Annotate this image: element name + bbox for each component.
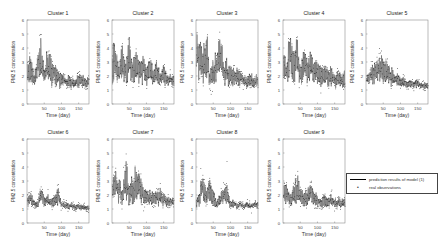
y-axis-label: PM2.5 concentration <box>180 159 185 202</box>
y-tick-label: 5 <box>107 151 110 156</box>
x-tick-label: 150 <box>331 106 339 111</box>
y-tick-label: 5 <box>191 32 194 37</box>
x-tick-label: 150 <box>244 225 252 230</box>
y-tick-label: 2 <box>278 193 281 198</box>
observation-dots <box>283 37 345 94</box>
y-tick-label: 2 <box>107 74 110 79</box>
x-axis-label: Time (day) <box>385 112 410 118</box>
x-tick-label: 150 <box>160 225 168 230</box>
y-tick-label: 1 <box>278 207 281 212</box>
x-axis-label: Time (day) <box>215 231 240 237</box>
legend-entry-prediction: prediction results of model (1) <box>350 176 424 182</box>
plot-area-frame <box>27 139 89 223</box>
x-tick-label: 100 <box>314 106 322 111</box>
x-axis-label: Time (day) <box>46 231 71 237</box>
y-axis-label: PM2.5 concentration <box>96 40 101 83</box>
panel-title: Cluster 4 <box>304 10 325 16</box>
y-tick-label: 2 <box>191 193 194 198</box>
x-tick-label: 50 <box>127 225 132 230</box>
y-tick-label: 1 <box>107 207 110 212</box>
x-tick-label: 50 <box>127 106 132 111</box>
panel-8: Cluster 8PM2.5 concentration012345650100… <box>180 129 258 237</box>
y-tick-label: 4 <box>361 46 364 51</box>
panel-title: Cluster 2 <box>133 10 154 16</box>
solid-line-swatch-icon <box>350 179 366 180</box>
legend-label-observations: real observations <box>369 185 401 190</box>
x-tick-label: 50 <box>42 225 47 230</box>
prediction-line <box>196 35 258 88</box>
x-tick-label: 50 <box>211 225 216 230</box>
legend-label-prediction: prediction results of model (1) <box>369 177 424 182</box>
y-tick-label: 4 <box>107 46 110 51</box>
y-tick-label: 3 <box>107 60 110 65</box>
x-tick-label: 50 <box>42 106 47 111</box>
x-axis-label: Time (day) <box>302 231 327 237</box>
panel-5: Cluster 5PM2.5 concentration012345650100… <box>350 10 428 118</box>
x-tick-label: 50 <box>381 106 386 111</box>
prediction-line <box>283 38 345 88</box>
x-tick-label: 50 <box>298 106 303 111</box>
plot-area-frame <box>196 139 258 223</box>
y-tick-label: 0 <box>22 221 25 226</box>
y-tick-label: 4 <box>22 46 25 51</box>
y-tick-label: 0 <box>278 221 281 226</box>
prediction-line <box>112 37 174 86</box>
y-tick-label: 6 <box>191 137 194 142</box>
x-axis-label: Time (day) <box>46 112 71 118</box>
y-tick-label: 1 <box>278 88 281 93</box>
x-axis-label: Time (day) <box>131 231 156 237</box>
y-tick-label: 0 <box>278 102 281 107</box>
x-tick-label: 150 <box>414 106 422 111</box>
y-tick-label: 0 <box>107 102 110 107</box>
y-axis-label: PM2.5 concentration <box>180 40 185 83</box>
y-tick-label: 1 <box>22 207 25 212</box>
y-tick-label: 6 <box>22 18 25 23</box>
y-tick-label: 0 <box>191 102 194 107</box>
y-tick-label: 2 <box>278 74 281 79</box>
y-tick-label: 3 <box>22 60 25 65</box>
prediction-line <box>112 161 174 207</box>
x-tick-label: 150 <box>75 225 83 230</box>
x-tick-label: 150 <box>244 106 252 111</box>
y-tick-label: 1 <box>107 88 110 93</box>
panel-title: Cluster 1 <box>48 10 69 16</box>
panel-title: Cluster 9 <box>304 129 325 135</box>
x-tick-label: 100 <box>143 225 151 230</box>
x-tick-label: 100 <box>227 106 235 111</box>
figure-grid: Cluster 1PM2.5 concentration012345650100… <box>0 0 439 247</box>
x-tick-label: 100 <box>143 106 151 111</box>
panel-title: Cluster 5 <box>387 10 408 16</box>
y-tick-label: 5 <box>361 32 364 37</box>
x-axis-label: Time (day) <box>131 112 156 118</box>
y-tick-label: 6 <box>191 18 194 23</box>
y-tick-label: 6 <box>361 18 364 23</box>
prediction-line <box>27 38 89 88</box>
y-tick-label: 1 <box>361 88 364 93</box>
y-tick-label: 6 <box>22 137 25 142</box>
y-axis-label: PM2.5 concentration <box>11 40 16 83</box>
plot-area-frame <box>366 20 428 104</box>
y-tick-label: 4 <box>191 46 194 51</box>
x-tick-label: 100 <box>58 106 66 111</box>
y-tick-label: 4 <box>107 165 110 170</box>
y-tick-label: 2 <box>22 193 25 198</box>
y-axis-label: PM2.5 concentration <box>350 40 355 83</box>
y-tick-label: 1 <box>191 207 194 212</box>
prediction-line <box>366 55 428 89</box>
x-tick-label: 50 <box>298 225 303 230</box>
prediction-line <box>27 188 89 210</box>
y-tick-label: 2 <box>107 193 110 198</box>
y-tick-label: 5 <box>22 151 25 156</box>
y-tick-label: 6 <box>107 18 110 23</box>
y-tick-label: 5 <box>278 32 281 37</box>
y-tick-label: 5 <box>22 32 25 37</box>
panel-9: Cluster 9PM2.5 concentration012345650100… <box>267 129 345 237</box>
panel-title: Cluster 7 <box>133 129 154 135</box>
observation-dots <box>112 154 174 212</box>
y-tick-label: 0 <box>22 102 25 107</box>
x-tick-label: 150 <box>331 225 339 230</box>
x-tick-label: 150 <box>160 106 168 111</box>
x-tick-label: 50 <box>211 106 216 111</box>
panel-7: Cluster 7PM2.5 concentration012345650100… <box>96 129 174 237</box>
y-tick-label: 0 <box>191 221 194 226</box>
